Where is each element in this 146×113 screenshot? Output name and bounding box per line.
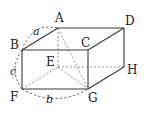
vertex-label-B: B (10, 38, 19, 52)
dimension-label-c: c (10, 65, 16, 78)
dimension-label-a: a (33, 25, 40, 38)
edge-AB (22, 28, 58, 50)
vertex-label-C: C (81, 36, 90, 50)
vertex-label-F: F (10, 90, 18, 104)
dimension-label-b: b (46, 93, 53, 106)
cuboid-diagram: A D B C E H F G a c b (0, 0, 146, 113)
vertex-label-H: H (127, 63, 137, 77)
vertex-label-G: G (88, 91, 98, 105)
dimension-arc-b (22, 89, 88, 99)
vertex-label-A: A (54, 11, 64, 25)
vertex-label-D: D (125, 14, 135, 28)
edge-CD (88, 28, 124, 50)
edge-EF (22, 67, 58, 89)
edge-GH (88, 67, 124, 89)
edge-EG (58, 67, 88, 89)
vertex-label-E: E (46, 55, 55, 69)
